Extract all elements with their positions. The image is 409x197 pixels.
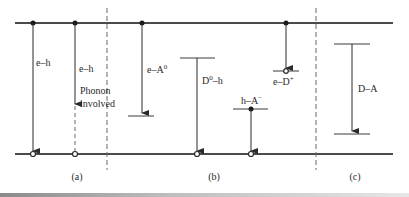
phonon-note-line1: Phonon — [80, 85, 111, 96]
panel-label-c: (c) — [349, 171, 360, 183]
label-sup: + — [290, 75, 294, 83]
bottom-border-bar — [0, 193, 409, 197]
hole-circle — [195, 152, 200, 157]
transition-label: e–D+ — [273, 75, 294, 87]
transition-label: e–A0 — [147, 63, 168, 75]
transition-h-A-minus: h–A− — [233, 94, 268, 157]
transition-D-A: D–A — [334, 44, 378, 134]
label-base: D — [202, 75, 209, 86]
label-post: –h — [212, 75, 223, 86]
panel-label-b: (b) — [208, 171, 220, 183]
transition-e-h-phonon: e–h Phonon involved — [73, 21, 116, 157]
transition-label: h–A− — [241, 94, 262, 106]
hole-circle — [249, 152, 254, 157]
label-base: e–A — [147, 64, 164, 75]
hole-circle — [73, 152, 78, 157]
label-base: h–A — [241, 95, 259, 106]
transition-label: e–h — [36, 57, 50, 68]
transition-label: e–h — [79, 63, 93, 74]
phonon-note-line2: involved — [80, 98, 115, 109]
label-sup: − — [258, 94, 262, 102]
transition-e-h-direct: e–h — [31, 21, 51, 157]
panel-label-a: (a) — [71, 171, 82, 183]
label-base: e–D — [273, 76, 290, 87]
hole-circle — [284, 69, 289, 74]
transition-label: D0–h — [202, 74, 223, 86]
transition-label: D–A — [358, 83, 378, 94]
recombination-energy-diagram: e–h e–h Phonon involved e–A0 D0–h h–A− — [0, 0, 409, 197]
transition-D0-h: D0–h — [180, 58, 223, 157]
hole-circle — [31, 152, 36, 157]
transition-e-D-plus: e–D+ — [273, 21, 299, 88]
transition-e-A0: e–A0 — [128, 21, 168, 117]
label-sup: 0 — [164, 63, 168, 71]
